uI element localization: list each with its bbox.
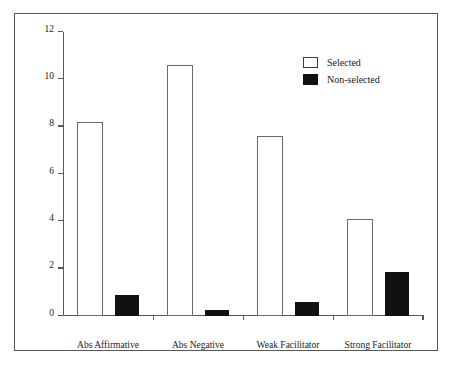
y-axis-tick-label: 8 — [49, 118, 54, 129]
bar-nonselected — [295, 302, 319, 316]
x-axis-tick — [153, 315, 154, 320]
legend-item: Selected — [303, 54, 380, 71]
y-axis-tick: 8 — [58, 125, 63, 126]
y-axis-line — [63, 32, 64, 316]
bar-nonselected — [115, 295, 139, 316]
x-axis-category-label: Strong Facilitator — [333, 340, 423, 351]
y-axis-tick-label: 0 — [49, 308, 54, 319]
x-axis-tick — [333, 315, 334, 320]
y-axis-tick: 10 — [58, 78, 63, 79]
bar-selected — [77, 122, 103, 316]
chart-legend: Selected Non-selected — [303, 54, 380, 88]
y-axis-tick: 4 — [58, 220, 63, 221]
legend-swatch-nonselected-icon — [303, 74, 318, 85]
y-axis-tick-label: 4 — [49, 213, 54, 224]
y-axis-tick: 0 — [58, 315, 63, 316]
x-axis-category-label: Abs Negative — [153, 340, 243, 351]
y-axis-tick-label: 10 — [45, 71, 55, 82]
bar-nonselected — [385, 272, 409, 316]
legend-swatch-selected-icon — [303, 57, 318, 68]
y-axis-tick: 6 — [58, 173, 63, 174]
x-axis-tick — [243, 315, 244, 320]
legend-label: Non-selected — [327, 74, 380, 86]
legend-label: Selected — [327, 57, 361, 69]
y-axis-tick-label: 6 — [49, 166, 54, 177]
bar-selected — [347, 219, 373, 316]
legend-item: Non-selected — [303, 71, 380, 88]
bar-nonselected — [205, 310, 229, 316]
bar-selected — [167, 65, 193, 316]
y-axis-tick-label: 12 — [45, 24, 55, 35]
bar-selected — [257, 136, 283, 316]
x-axis-category-label: Weak Facilitator — [243, 340, 333, 351]
y-axis-tick: 2 — [58, 267, 63, 268]
y-axis-tick-label: 2 — [49, 260, 54, 271]
x-axis-tick — [423, 315, 424, 320]
x-axis-category-label: Abs Affirmative — [63, 340, 153, 351]
figure-frame: 024681012 Abs AffirmativeAbs NegativeWea… — [14, 13, 438, 351]
y-axis-tick: 12 — [58, 31, 63, 32]
